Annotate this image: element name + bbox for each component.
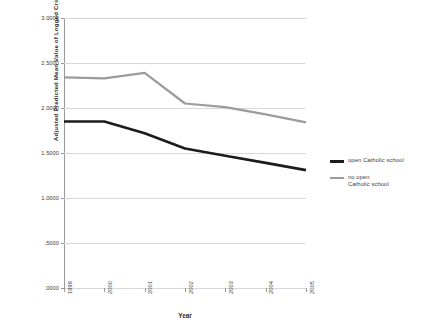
legend-label-1: no open xyxy=(348,174,370,180)
series-lines xyxy=(64,18,306,288)
y-tick-label: 2.0000 xyxy=(41,105,59,111)
series-line-1 xyxy=(64,73,306,123)
x-tick-mark xyxy=(64,288,65,292)
x-tick-mark xyxy=(104,288,105,292)
series-line-0 xyxy=(64,122,306,171)
y-tick-label: 3.0000 xyxy=(41,15,59,21)
x-tick-mark xyxy=(225,288,226,292)
y-tick-label: 1.0000 xyxy=(41,195,59,201)
y-tick-label: .5000 xyxy=(45,240,60,246)
x-tick-mark xyxy=(266,288,267,292)
plot-area: 3.00002.50002.00001.50001.0000.5000.0000… xyxy=(64,18,306,288)
y-tick-label: .0000 xyxy=(45,285,60,291)
chart-legend: open Catholic school no open Catholic sc… xyxy=(330,157,430,198)
x-tick-mark xyxy=(306,288,307,292)
legend-label-0: open Catholic school xyxy=(348,157,404,163)
y-tick-label: 1.5000 xyxy=(41,150,59,156)
chart-figure: Adjusted Predicted Mean Value of Logged … xyxy=(0,0,435,336)
legend-swatch-black xyxy=(330,160,344,163)
legend-label-1-line2: Catholic school xyxy=(348,181,389,187)
y-tick-label: 2.5000 xyxy=(41,60,59,66)
legend-swatch-gray xyxy=(330,177,344,180)
legend-item-no-open-catholic-school: no open Catholic school xyxy=(330,174,430,189)
x-tick-mark xyxy=(185,288,186,292)
legend-item-open-catholic-school: open Catholic school xyxy=(330,157,430,165)
x-tick-mark xyxy=(145,288,146,292)
x-axis-title: Year xyxy=(64,312,306,319)
x-tick-label: 2005 xyxy=(309,281,315,294)
